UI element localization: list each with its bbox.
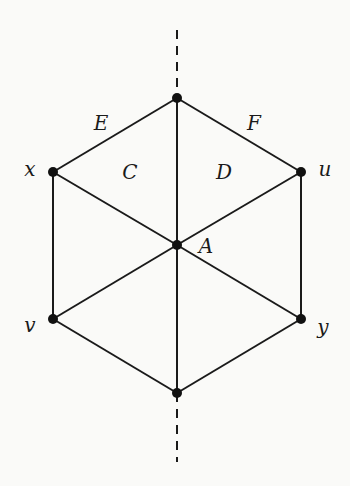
edge-v-A (53, 245, 177, 319)
vertex-y (296, 314, 306, 324)
label-vertex-v: v (24, 315, 35, 335)
label-edge-F: F (247, 113, 261, 133)
label-vertex-u: u (319, 159, 332, 179)
edge-top-u (177, 98, 301, 172)
label-vertex-A: A (199, 236, 213, 256)
vertex-u (296, 167, 306, 177)
edge-y-bottom (177, 319, 301, 393)
vertex-x (48, 167, 58, 177)
vertex-bottom (172, 388, 182, 398)
hexagon-graph-diagram: x u A v y E F C D (0, 0, 350, 486)
edge-y-A (177, 245, 301, 319)
graph-svg (0, 0, 350, 486)
vertex-top (172, 93, 182, 103)
vertex-A (172, 240, 182, 250)
label-edge-E: E (94, 113, 109, 133)
vertex-v (48, 314, 58, 324)
edge-top-x (53, 98, 177, 172)
label-vertex-x: x (24, 159, 35, 179)
label-vertex-y: y (317, 317, 328, 337)
edge-u-A (177, 172, 301, 245)
label-face-D: D (216, 162, 232, 182)
label-face-C: C (122, 162, 137, 182)
edge-x-A (53, 172, 177, 245)
edge-v-bottom (53, 319, 177, 393)
